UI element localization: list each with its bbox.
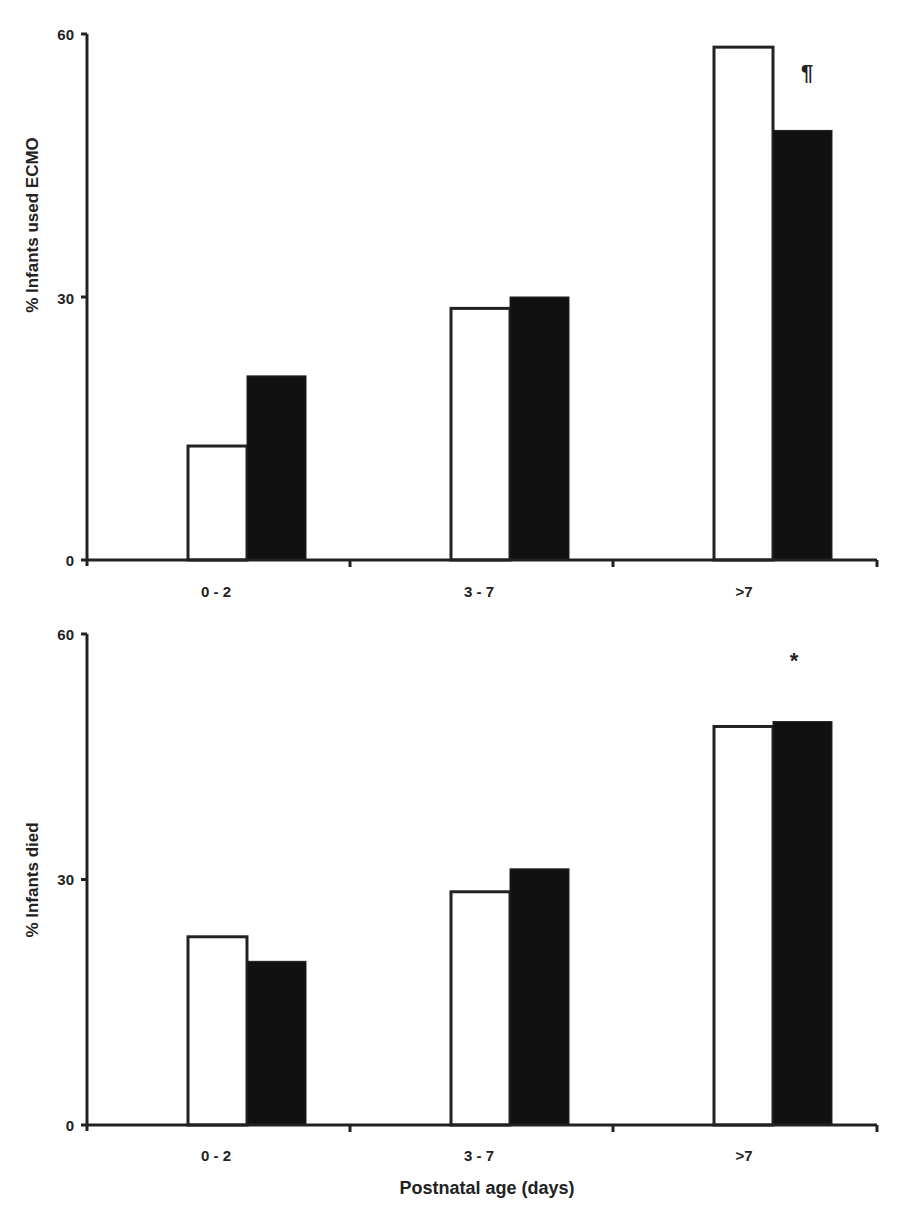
bar-filled (510, 869, 569, 1125)
x-tick-label: 0 - 2 (201, 583, 231, 600)
y-tick-0: 0 (66, 1117, 74, 1134)
bar-open (714, 47, 773, 560)
x-tick-label: >7 (735, 583, 752, 600)
bar-filled (773, 130, 832, 560)
bar-open (451, 308, 510, 560)
bar-filled (247, 376, 306, 560)
y-tick-0: 0 (66, 552, 74, 569)
x-axis-title: Postnatal age (days) (399, 1178, 574, 1198)
y-axis-title: % Infants died (23, 822, 42, 937)
bar-filled (773, 722, 832, 1125)
bar-open (188, 937, 247, 1125)
y-tick-30: 30 (57, 290, 74, 307)
bar-filled (247, 961, 306, 1125)
figure: % Infants used ECMO 60 30 0 0 - 2 3 - 7 … (0, 0, 898, 1217)
panel-died: % Infants died 60 30 0 0 - 2 3 - 7 >7 * … (23, 626, 877, 1198)
x-tick-label: 3 - 7 (464, 583, 494, 600)
y-tick-30: 30 (57, 871, 74, 888)
bar-open (714, 726, 773, 1125)
x-tick-label: >7 (735, 1147, 752, 1164)
significance-annotation: * (790, 648, 799, 673)
bars-group (188, 722, 832, 1125)
x-tick-label: 0 - 2 (201, 1147, 231, 1164)
y-tick-60: 60 (57, 26, 74, 43)
y-axis-title: % Infants used ECMO (23, 137, 42, 313)
significance-annotation: ¶ (801, 60, 813, 85)
bar-filled (510, 297, 569, 560)
bar-chart-figure: % Infants used ECMO 60 30 0 0 - 2 3 - 7 … (0, 0, 898, 1217)
y-tick-60: 60 (57, 626, 74, 643)
panel-ecmo: % Infants used ECMO 60 30 0 0 - 2 3 - 7 … (23, 26, 877, 600)
bar-open (188, 446, 247, 560)
bars-group (188, 47, 832, 560)
bar-open (451, 892, 510, 1125)
x-tick-label: 3 - 7 (464, 1147, 494, 1164)
